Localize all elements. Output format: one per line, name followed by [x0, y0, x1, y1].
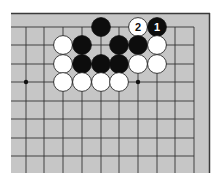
black-stone	[110, 55, 129, 74]
white-stone	[148, 55, 167, 74]
white-stone	[73, 73, 92, 92]
white-stone	[54, 55, 73, 74]
star-point	[24, 80, 28, 84]
white-stone	[54, 73, 73, 92]
star-point	[136, 80, 140, 84]
white-stone	[92, 73, 111, 92]
white-stone	[148, 36, 167, 55]
black-stone	[92, 55, 111, 74]
black-stone	[73, 55, 92, 74]
move-number-label: 1	[154, 21, 160, 33]
black-stone	[73, 36, 92, 55]
black-stone	[110, 36, 129, 55]
black-stone	[129, 36, 148, 55]
black-stone: 1	[148, 18, 167, 37]
white-stone: 2	[129, 18, 148, 37]
go-board: 21	[0, 0, 216, 173]
move-number-label: 2	[135, 21, 141, 33]
board-surface	[11, 13, 210, 173]
white-stone	[129, 55, 148, 74]
white-stone	[110, 73, 129, 92]
black-stone	[92, 18, 111, 37]
white-stone	[54, 36, 73, 55]
